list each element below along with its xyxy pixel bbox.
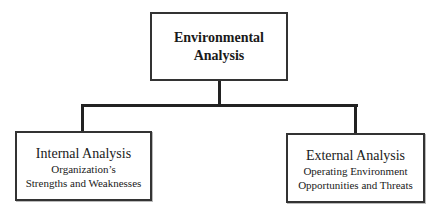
node-title: Environmental Analysis xyxy=(169,29,269,65)
node-subtitle-line-2: Strengths and Weaknesses xyxy=(26,176,142,190)
connector-to-internal-analysis xyxy=(81,104,84,132)
external-analysis-node: External Analysis Operating Environment … xyxy=(286,133,425,203)
node-subtitle-line-1: Operating Environment xyxy=(303,164,407,178)
internal-analysis-node: Internal Analysis Organization’s Strengt… xyxy=(15,131,152,201)
node-title: External Analysis xyxy=(306,147,405,164)
connector-to-external-analysis xyxy=(354,104,357,134)
connector-horizontal-branch xyxy=(81,104,358,107)
node-subtitle-line-1: Organization’s xyxy=(51,162,116,176)
node-title: Internal Analysis xyxy=(36,145,131,162)
node-subtitle-line-2: Opportunities and Threats xyxy=(298,178,413,192)
environmental-analysis-node: Environmental Analysis xyxy=(150,12,288,81)
connector-root-to-branch xyxy=(218,80,221,107)
